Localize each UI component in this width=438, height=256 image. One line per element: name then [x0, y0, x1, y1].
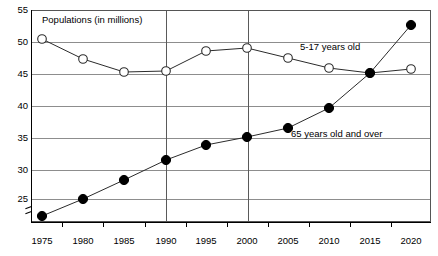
series-label-65-years-old-and-over: 65 years old and over [291, 128, 382, 139]
x-tick-label-2020: 2020 [400, 236, 421, 246]
gridline-y-30 [32, 170, 430, 171]
plot-area [31, 10, 431, 222]
gridline-y-40 [32, 106, 430, 107]
x-axis-tick [227, 222, 228, 227]
y-tick-label-40: 40 [2, 101, 28, 111]
chart-container: 55 50 45 40 35 30 25 Populations (in mil… [0, 0, 438, 256]
series-label-5-17-years-old: 5-17 years old [300, 41, 360, 52]
x-tick-label-2015: 2015 [359, 236, 380, 246]
y-tick-label-30: 30 [2, 165, 28, 175]
gridline-x-1990 [166, 11, 167, 221]
x-tick-label-1995: 1995 [195, 236, 216, 246]
x-tick-label-1975: 1975 [31, 236, 52, 246]
gridline-x-2000 [248, 11, 249, 221]
x-axis-tick-labels: 1975 1980 1985 1990 1995 2000 2005 2010 … [0, 236, 438, 250]
gridline-y-45 [32, 74, 430, 75]
gridline-y-50 [32, 42, 430, 43]
x-axis-tick [350, 222, 351, 227]
y-tick-label-35: 35 [2, 133, 28, 143]
x-axis-tick [62, 222, 63, 227]
y-tick-label-55: 55 [2, 5, 28, 15]
gridline-y-25 [32, 199, 430, 200]
y-tick-label-50: 50 [2, 37, 28, 47]
x-axis-tick [309, 222, 310, 227]
x-axis-tick [145, 222, 146, 227]
x-axis-tick [268, 222, 269, 227]
x-tick-label-1990: 1990 [155, 236, 176, 246]
y-axis-tick-labels: 55 50 45 40 35 30 25 [0, 0, 28, 256]
y-tick-label-45: 45 [2, 69, 28, 79]
x-tick-label-2000: 2000 [236, 236, 257, 246]
x-tick-label-2005: 2005 [277, 236, 298, 246]
x-axis-tick [391, 222, 392, 227]
x-tick-label-1980: 1980 [72, 236, 93, 246]
chart-title: Populations (in millions) [42, 14, 142, 25]
x-axis-tick [186, 222, 187, 227]
x-axis-line [31, 222, 431, 223]
y-axis-line [31, 10, 32, 223]
x-axis-tick [103, 222, 104, 227]
x-tick-label-2010: 2010 [318, 236, 339, 246]
x-tick-label-1985: 1985 [113, 236, 134, 246]
